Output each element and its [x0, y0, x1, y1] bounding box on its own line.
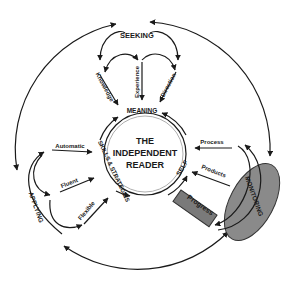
direction-label: Direction: [159, 72, 177, 98]
seeking-title: SEEKING: [120, 31, 154, 40]
svg-text:READER: READER: [126, 160, 165, 170]
flexible-label: Flexible: [77, 200, 96, 221]
center-title: THE INDEPENDENT READER: [113, 136, 178, 170]
experience-label: Experience: [134, 65, 140, 98]
process-label: Process: [200, 139, 224, 145]
svg-text:THE: THE: [136, 136, 154, 146]
progress-box: Progress: [173, 190, 217, 227]
knowledge-label: Knowledge: [95, 72, 116, 104]
automatic-label: Automatic: [55, 143, 85, 149]
fluent-label: Fluent: [60, 177, 79, 189]
applying-title: APPLYING: [27, 191, 45, 224]
svg-text:INDEPENDENT: INDEPENDENT: [113, 148, 178, 158]
independent-reader-diagram: THE INDEPENDENT READER MEANING SELF SKIL…: [0, 0, 287, 285]
self-label: SELF: [175, 159, 189, 177]
applying-group: APPLYING Automatic Fluent Flexible: [27, 143, 108, 234]
seeking-group: SEEKING Knowledge Experience Direction: [95, 31, 178, 105]
meaning-label: MEANING: [127, 107, 158, 114]
